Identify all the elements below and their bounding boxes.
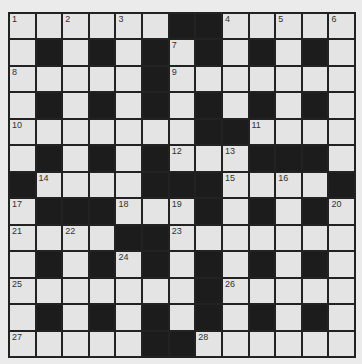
- answer-cell[interactable]: [63, 305, 88, 329]
- answer-cell[interactable]: [37, 67, 62, 91]
- answer-cell[interactable]: [276, 226, 301, 250]
- answer-cell[interactable]: [329, 252, 354, 276]
- answer-cell[interactable]: [223, 93, 248, 117]
- answer-cell[interactable]: [170, 120, 195, 144]
- answer-cell[interactable]: 19: [170, 199, 195, 223]
- answer-cell[interactable]: [143, 279, 168, 303]
- answer-cell[interactable]: 11: [250, 120, 275, 144]
- answer-cell[interactable]: [116, 67, 141, 91]
- answer-cell[interactable]: [116, 120, 141, 144]
- answer-cell[interactable]: [116, 332, 141, 356]
- answer-cell[interactable]: 6: [329, 14, 354, 38]
- answer-cell[interactable]: [37, 226, 62, 250]
- answer-cell[interactable]: [276, 252, 301, 276]
- answer-cell[interactable]: [276, 93, 301, 117]
- answer-cell[interactable]: 16: [276, 173, 301, 197]
- answer-cell[interactable]: [329, 332, 354, 356]
- answer-cell[interactable]: [116, 279, 141, 303]
- answer-cell[interactable]: [250, 332, 275, 356]
- answer-cell[interactable]: 5: [276, 14, 301, 38]
- answer-cell[interactable]: [303, 173, 328, 197]
- answer-cell[interactable]: [303, 332, 328, 356]
- answer-cell[interactable]: [116, 93, 141, 117]
- answer-cell[interactable]: 13: [223, 146, 248, 170]
- answer-cell[interactable]: 9: [170, 67, 195, 91]
- answer-cell[interactable]: [63, 252, 88, 276]
- answer-cell[interactable]: [223, 226, 248, 250]
- answer-cell[interactable]: [329, 305, 354, 329]
- answer-cell[interactable]: [90, 14, 115, 38]
- answer-cell[interactable]: [276, 120, 301, 144]
- answer-cell[interactable]: 18: [116, 199, 141, 223]
- answer-cell[interactable]: [223, 305, 248, 329]
- answer-cell[interactable]: [90, 226, 115, 250]
- answer-cell[interactable]: [63, 146, 88, 170]
- answer-cell[interactable]: [223, 67, 248, 91]
- answer-cell[interactable]: [37, 279, 62, 303]
- answer-cell[interactable]: [250, 67, 275, 91]
- answer-cell[interactable]: [276, 67, 301, 91]
- answer-cell[interactable]: 10: [10, 120, 35, 144]
- answer-cell[interactable]: [303, 226, 328, 250]
- answer-cell[interactable]: 1: [10, 14, 35, 38]
- answer-cell[interactable]: [196, 146, 221, 170]
- answer-cell[interactable]: [223, 332, 248, 356]
- answer-cell[interactable]: [90, 120, 115, 144]
- answer-cell[interactable]: [63, 93, 88, 117]
- answer-cell[interactable]: [329, 226, 354, 250]
- answer-cell[interactable]: [90, 279, 115, 303]
- answer-cell[interactable]: [90, 67, 115, 91]
- answer-cell[interactable]: [276, 332, 301, 356]
- answer-cell[interactable]: [143, 120, 168, 144]
- answer-cell[interactable]: [116, 305, 141, 329]
- answer-cell[interactable]: [116, 40, 141, 64]
- answer-cell[interactable]: 27: [10, 332, 35, 356]
- answer-cell[interactable]: [37, 14, 62, 38]
- answer-cell[interactable]: [10, 252, 35, 276]
- answer-cell[interactable]: [63, 120, 88, 144]
- answer-cell[interactable]: [143, 199, 168, 223]
- answer-cell[interactable]: 24: [116, 252, 141, 276]
- answer-cell[interactable]: [63, 279, 88, 303]
- answer-cell[interactable]: [303, 14, 328, 38]
- answer-cell[interactable]: 8: [10, 67, 35, 91]
- answer-cell[interactable]: [37, 332, 62, 356]
- answer-cell[interactable]: 23: [170, 226, 195, 250]
- answer-cell[interactable]: [63, 173, 88, 197]
- answer-cell[interactable]: 4: [223, 14, 248, 38]
- answer-cell[interactable]: [303, 67, 328, 91]
- answer-cell[interactable]: [276, 40, 301, 64]
- answer-cell[interactable]: 7: [170, 40, 195, 64]
- answer-cell[interactable]: [276, 199, 301, 223]
- answer-cell[interactable]: 28: [196, 332, 221, 356]
- answer-cell[interactable]: 2: [63, 14, 88, 38]
- answer-cell[interactable]: [250, 14, 275, 38]
- answer-cell[interactable]: [10, 146, 35, 170]
- answer-cell[interactable]: [37, 120, 62, 144]
- answer-cell[interactable]: [276, 279, 301, 303]
- answer-cell[interactable]: [10, 40, 35, 64]
- answer-cell[interactable]: [303, 120, 328, 144]
- answer-cell[interactable]: [223, 40, 248, 64]
- answer-cell[interactable]: 17: [10, 199, 35, 223]
- answer-cell[interactable]: [223, 252, 248, 276]
- answer-cell[interactable]: [90, 332, 115, 356]
- answer-cell[interactable]: [170, 252, 195, 276]
- answer-cell[interactable]: [63, 67, 88, 91]
- answer-cell[interactable]: 21: [10, 226, 35, 250]
- answer-cell[interactable]: 3: [116, 14, 141, 38]
- answer-cell[interactable]: [116, 146, 141, 170]
- answer-cell[interactable]: [329, 67, 354, 91]
- answer-cell[interactable]: [329, 93, 354, 117]
- answer-cell[interactable]: 15: [223, 173, 248, 197]
- answer-cell[interactable]: [63, 332, 88, 356]
- answer-cell[interactable]: [90, 173, 115, 197]
- answer-cell[interactable]: [223, 199, 248, 223]
- answer-cell[interactable]: 22: [63, 226, 88, 250]
- answer-cell[interactable]: [196, 226, 221, 250]
- answer-cell[interactable]: [303, 279, 328, 303]
- answer-cell[interactable]: [10, 93, 35, 117]
- answer-cell[interactable]: [329, 146, 354, 170]
- answer-cell[interactable]: 26: [223, 279, 248, 303]
- answer-cell[interactable]: 12: [170, 146, 195, 170]
